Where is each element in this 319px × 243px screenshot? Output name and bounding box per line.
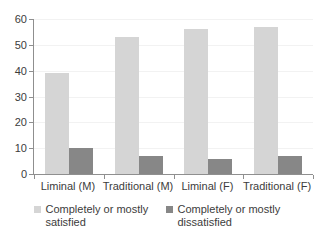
bar-satisfied <box>45 73 69 174</box>
legend-label: Completely or mostly satisfied <box>46 203 154 229</box>
bar-dissatisfied <box>139 156 163 174</box>
x-axis-category-label: Liminal (M) <box>33 180 103 193</box>
bar-chart: 6050403020100 Liminal (M)Traditional (M)… <box>0 0 319 243</box>
bar-dissatisfied <box>278 156 302 174</box>
bar-satisfied <box>115 37 139 174</box>
y-axis-tick-label: 10 <box>0 143 27 154</box>
y-axis-tick-label: 20 <box>0 117 27 128</box>
x-axis-tick-mark <box>313 175 314 179</box>
y-axis-tick-label: 60 <box>0 14 27 25</box>
bar-dissatisfied <box>69 148 93 174</box>
legend-label: Completely or mostly dissatisfied <box>178 203 286 229</box>
bar-dissatisfied <box>208 159 232 175</box>
legend-item[interactable]: Completely or mostly dissatisfied <box>166 203 286 229</box>
y-axis-tick-label: 0 <box>0 169 27 180</box>
x-axis-category-label: Traditional (M) <box>103 180 173 193</box>
bar-satisfied <box>254 27 278 174</box>
chart-legend: Completely or mostly satisfiedCompletely… <box>0 203 319 243</box>
y-axis-tick-label: 30 <box>0 92 27 103</box>
plot-area: 6050403020100 Liminal (M)Traditional (M)… <box>0 0 319 190</box>
bars-layer <box>34 0 313 190</box>
legend-swatch-light <box>34 206 41 213</box>
y-axis-tick-label: 40 <box>0 66 27 77</box>
x-axis-category-label: Liminal (F) <box>173 180 243 193</box>
bar-satisfied <box>184 29 208 174</box>
x-axis-category-labels: Liminal (M)Traditional (M)Liminal (F)Tra… <box>33 180 313 196</box>
y-axis-tick-label: 50 <box>0 40 27 51</box>
x-axis-category-label: Traditional (F) <box>242 180 312 193</box>
y-axis-tick-labels: 6050403020100 <box>0 0 27 190</box>
legend-item[interactable]: Completely or mostly satisfied <box>34 203 154 229</box>
legend-swatch-dark <box>166 206 173 213</box>
